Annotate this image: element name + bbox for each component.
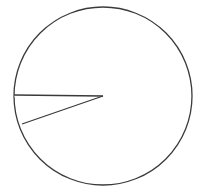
diagram-canvas [0,0,202,195]
circle-sector-figure [0,0,202,195]
